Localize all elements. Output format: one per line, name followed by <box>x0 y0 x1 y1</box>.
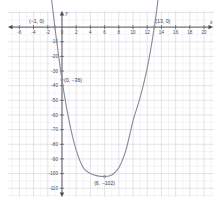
x-tick-label: 16 <box>173 30 179 35</box>
y-tick-label: -40 <box>51 83 58 88</box>
y-tick-label: -60 <box>51 113 58 118</box>
x-axis-label: x <box>209 19 213 25</box>
x-tick-label: 0 <box>61 30 64 35</box>
y-tick-label: -100 <box>49 171 59 176</box>
annotation-label-left-root: (−1, 0) <box>29 18 44 24</box>
x-tick-label: 8 <box>118 30 121 35</box>
annotation-label-y-int: (0, −36) <box>64 77 82 83</box>
x-tick-label: 6 <box>103 30 106 35</box>
y-tick-label: -80 <box>51 142 58 147</box>
annotation-label-right-root: (13, 0) <box>155 18 170 24</box>
y-tick-label: -110 <box>49 186 58 191</box>
y-tick-label: -30 <box>51 69 58 74</box>
y-tick-label: -50 <box>51 98 58 103</box>
y-tick-label: -20 <box>51 54 58 59</box>
x-tick-label: 20 <box>201 30 207 35</box>
graph-container: -6-4-202468101214161820 -10-20-30-40-50-… <box>0 0 222 208</box>
x-tick-label: 4 <box>89 30 92 35</box>
annotation-label-vertex: (6, −102) <box>94 180 115 186</box>
x-tick-label: 10 <box>130 30 136 35</box>
parabola-chart: -6-4-202468101214161820 -10-20-30-40-50-… <box>0 0 222 208</box>
x-tick-label: 12 <box>145 30 151 35</box>
x-tick-label: 2 <box>75 30 78 35</box>
y-tick-label: -90 <box>51 157 58 162</box>
x-tick-label: 14 <box>159 30 165 35</box>
x-tick-label: -4 <box>32 30 37 35</box>
x-tick-label: -2 <box>46 30 51 35</box>
y-tick-label: -70 <box>51 127 58 132</box>
y-axis-label: y <box>64 10 68 16</box>
x-tick-label: 18 <box>187 30 193 35</box>
x-tick-label: -6 <box>17 30 22 35</box>
